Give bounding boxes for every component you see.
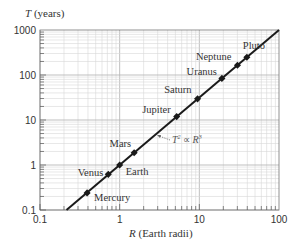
x-tick-label: 1 — [117, 214, 123, 225]
x-tick-label: 0.1 — [33, 214, 47, 225]
planet-label-uranus: Uranus — [187, 66, 217, 77]
svg-text:T2 ∝ R3: T2 ∝ R3 — [172, 134, 202, 145]
y-tick-label: 0.1 — [22, 205, 36, 216]
x-tick-label: 10 — [194, 214, 206, 225]
planet-label-pluto: Pluto — [243, 40, 265, 51]
planet-label-venus: Venus — [78, 167, 104, 178]
y-tick-label: 10 — [25, 115, 37, 126]
planet-label-jupiter: Jupiter — [142, 104, 171, 115]
planet-label-earth: Earth — [126, 166, 149, 177]
y-tick-label: 1000 — [14, 25, 37, 36]
x-tick-label: 100 — [271, 214, 288, 225]
grid — [40, 30, 279, 210]
planet-label-neptune: Neptune — [196, 51, 232, 62]
y-tick-label: 100 — [19, 70, 36, 81]
kepler-law-chart: 0.11101000.11101001000 MercuryVenusEarth… — [0, 0, 299, 249]
planet-label-saturn: Saturn — [164, 84, 192, 95]
y-tick-label: 1 — [30, 160, 36, 171]
planet-label-mars: Mars — [110, 138, 132, 149]
x-axis-title: R (Earth radii) — [128, 227, 193, 240]
y-axis-title: T (years) — [25, 7, 65, 20]
planet-label-mercury: Mercury — [94, 192, 131, 203]
